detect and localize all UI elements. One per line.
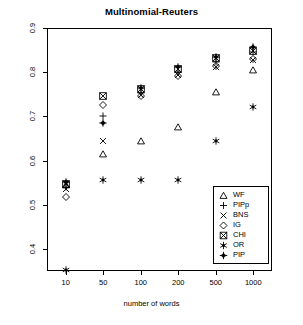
y-tick-mark xyxy=(43,205,47,206)
y-tick-mark xyxy=(43,249,47,250)
legend-item-label: IG xyxy=(230,220,241,230)
x-tick-mark xyxy=(103,271,104,275)
legend-item-label: CHI xyxy=(230,230,246,240)
chart-title: Multinomial-Reuters xyxy=(0,6,303,17)
x-tick-label: 1000 xyxy=(245,278,262,287)
y-tick-label: 0.7 xyxy=(28,107,37,125)
y-tick-label: 0.9 xyxy=(28,19,37,37)
x-tick-mark xyxy=(141,271,142,275)
x-tick-mark xyxy=(253,271,254,275)
square-x-icon xyxy=(217,230,230,240)
legend-item-label: OR xyxy=(230,240,244,250)
x-tick-label: 10 xyxy=(62,278,70,287)
legend-item-ig[interactable]: IG xyxy=(217,220,266,230)
legend[interactable]: WFPIPpBNSIGCHIORPIP xyxy=(213,186,269,264)
legend-item-bns[interactable]: BNS xyxy=(217,210,266,220)
diamond-icon xyxy=(217,220,230,230)
x-tick-label: 200 xyxy=(172,278,185,287)
x-axis-label: number of words xyxy=(0,299,303,308)
y-tick-label: 0.6 xyxy=(28,152,37,170)
y-tick-label: 0.4 xyxy=(28,240,37,258)
legend-item-label: PIP xyxy=(230,250,245,260)
y-tick-mark xyxy=(43,161,47,162)
x-tick-mark xyxy=(66,271,67,275)
plus-icon xyxy=(217,200,230,210)
x-tick-label: 500 xyxy=(209,278,222,287)
y-tick-mark xyxy=(43,28,47,29)
y-tick-mark xyxy=(43,116,47,117)
plus-solid-icon xyxy=(217,250,230,260)
legend-item-label: BNS xyxy=(230,210,248,220)
y-tick-label: 0.5 xyxy=(28,196,37,214)
legend-item-label: PIPp xyxy=(230,200,249,210)
x-tick-mark xyxy=(178,271,179,275)
x-tick-label: 100 xyxy=(134,278,147,287)
legend-item-chi[interactable]: CHI xyxy=(217,230,266,240)
chart-canvas: Multinomial-Reuters 0.40.50.60.70.80.910… xyxy=(0,0,303,325)
x-tick-label: 50 xyxy=(99,278,107,287)
y-tick-label: 0.8 xyxy=(28,63,37,81)
legend-item-label: WF xyxy=(230,190,245,200)
legend-item-wf[interactable]: WF xyxy=(217,190,266,200)
legend-item-pipp[interactable]: PIPp xyxy=(217,200,266,210)
triangle-icon xyxy=(217,190,230,200)
y-tick-mark xyxy=(43,72,47,73)
legend-item-pip[interactable]: PIP xyxy=(217,250,266,260)
cross-icon xyxy=(217,210,230,220)
asterisk-icon xyxy=(217,240,230,250)
x-tick-mark xyxy=(216,271,217,275)
legend-item-or[interactable]: OR xyxy=(217,240,266,250)
